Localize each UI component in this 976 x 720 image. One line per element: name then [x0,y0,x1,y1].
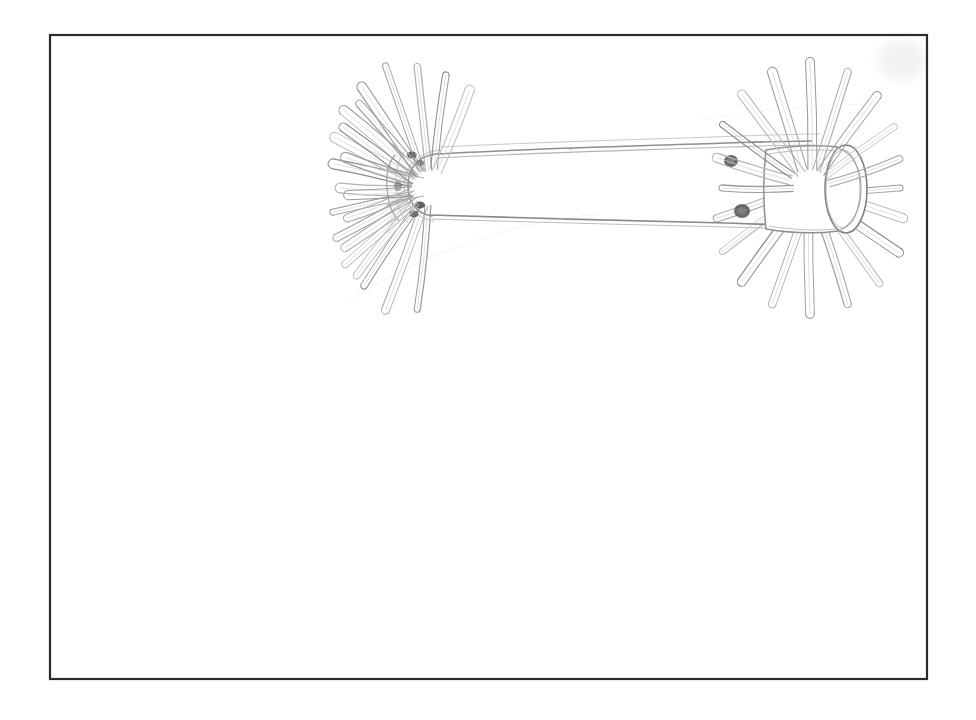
sketch-canvas: Pencil sketch of a bottle brush graphite… [0,0,976,720]
pencil-sketch-illustration [0,0,976,720]
paper-smudge [878,40,926,80]
paper-ground [0,0,976,720]
